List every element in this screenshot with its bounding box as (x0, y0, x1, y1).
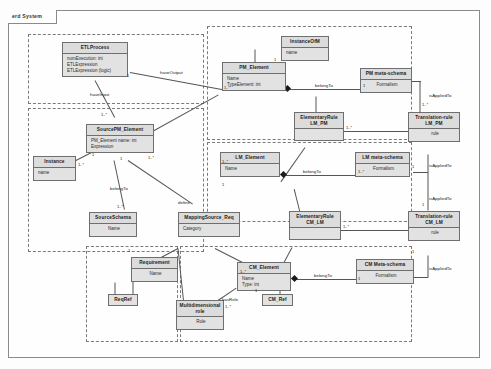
edge-belongto-lm (283, 175, 355, 176)
edge-belongto-cm (294, 279, 356, 280)
class-title: ReqRef (109, 295, 137, 305)
class-elementary-rule-cm-lm[interactable]: ElementaryRule CM_LM (289, 211, 341, 240)
class-instance[interactable]: Instance name (33, 156, 76, 181)
class-mapping-source-req[interactable]: MappingSource_Req Category (178, 212, 240, 237)
multiplicity: 1 (120, 157, 122, 162)
edge-label-define: define (178, 200, 190, 205)
class-source-schema[interactable]: SourceSchema Name (89, 212, 137, 237)
class-attributes: Name (132, 269, 177, 281)
class-translation-rule-cm-lm[interactable]: Translation-rule CM_LM rule (408, 211, 460, 241)
class-attributes: rule (409, 228, 459, 240)
class-attributes: Category (179, 224, 239, 236)
attribute: rule (413, 230, 457, 236)
multiplicity: 1..* (222, 160, 228, 165)
attribute: rule (413, 131, 457, 137)
edge-label-belongto-lm: belongTo (303, 169, 321, 174)
class-instance-of[interactable]: InstanceOfM name (281, 36, 329, 61)
class-cm-element[interactable]: CM_Element Name Type: int (237, 262, 291, 291)
multiplicity: 1 (92, 153, 94, 158)
class-cm-meta-schema[interactable]: CM Meta-schema Formalism (356, 259, 414, 284)
multiplicity: 1 (222, 183, 224, 188)
multiplicity: 1..* (422, 103, 428, 108)
attribute: Name (94, 226, 134, 232)
class-title: Translation-rule CM_LM (409, 212, 459, 228)
class-attributes: name (34, 168, 75, 180)
edge-label-have-input: haveInput (90, 92, 109, 97)
edge-label-isappliedto-3: isAppliedTo (429, 196, 451, 201)
class-attributes (295, 129, 343, 140)
edge-lmmeta-right (413, 172, 428, 173)
attribute: TypeElement: int (227, 82, 283, 88)
class-title: Multidimensional role (177, 301, 223, 317)
class-title: MappingSource_Req (179, 213, 239, 224)
class-elementary-rule-lm-pm[interactable]: ElementaryRule LM_PM (294, 112, 344, 141)
class-attributes: name (282, 48, 328, 60)
uml-diagram-canvas: erd System (0, 0, 491, 369)
multiplicity: 1 (412, 165, 414, 170)
multiplicity: 1..* (225, 305, 231, 310)
edge-label-belongto-source: belongTo (110, 186, 128, 191)
attribute: name (286, 50, 326, 56)
edge-label-belongto-pm: belongTo (315, 83, 333, 88)
class-attributes: PM_Element name: int Expression (87, 136, 153, 152)
class-attributes: Name Type: int (238, 274, 290, 290)
class-title: LM meta-schema (356, 153, 409, 164)
attribute: Category (183, 226, 237, 232)
attribute: Formalism (365, 82, 409, 88)
multiplicity: 1 (127, 74, 129, 79)
class-cm-ref[interactable]: CM_Ref (262, 294, 293, 306)
attribute: Role (181, 319, 221, 325)
attribute: Name (225, 166, 277, 172)
multiplicity: 1 (363, 84, 365, 89)
class-title: PM meta-schema (361, 69, 411, 80)
edge-label-have-output: haveOutput (160, 70, 183, 75)
class-attributes: Name (90, 224, 136, 236)
multiplicity: 1..* (240, 270, 246, 275)
class-lm-element[interactable]: LM_Element Name (220, 152, 280, 177)
multiplicity: 1..* (78, 163, 84, 168)
class-title: CM_Ref (263, 295, 292, 305)
class-multidimensional-role[interactable]: Multidimensional role Role (176, 300, 224, 330)
class-attributes: Name (221, 164, 279, 176)
multiplicity: 1 (274, 58, 276, 63)
multiplicity: 1..* (343, 225, 349, 230)
class-title: CM Meta-schema (357, 260, 413, 271)
multiplicity: 1 (255, 289, 257, 294)
attribute: Formalism (360, 166, 407, 172)
multiplicity: 1 (412, 250, 414, 255)
class-pm-element[interactable]: PM_Element Name TypeElement: int (222, 62, 286, 91)
edge-cmmeta-right (414, 277, 428, 278)
multiplicity: 1..* (346, 126, 352, 131)
attribute: Expression (91, 144, 151, 150)
multiplicity: 1 (358, 277, 360, 282)
class-pm-meta-schema[interactable]: PM meta-schema Formalism (360, 68, 412, 93)
class-attributes: Formalism (361, 80, 411, 92)
class-attributes (290, 228, 340, 239)
edge-label-isappliedto-2: isAppliedTo (429, 163, 451, 168)
edge-isappliedto-3 (428, 173, 429, 211)
class-req-ref[interactable]: ReqRef (108, 294, 138, 306)
class-title: ElementaryRule LM_PM (295, 113, 343, 129)
class-attributes: numExecution: int ETLExpression ETLExpre… (63, 54, 127, 76)
multiplicity: 1 (128, 249, 130, 254)
attribute: name (38, 170, 73, 176)
attribute: Formalism (361, 273, 411, 279)
edge-elemrule-transrule-lmpm (344, 131, 408, 132)
class-title: SourceSchema (90, 213, 136, 224)
frame-label: erd System (8, 10, 57, 24)
multiplicity: 1..* (148, 156, 154, 161)
multiplicity: 1..* (358, 170, 364, 175)
class-title: Translation-rule LM_PM (409, 113, 459, 129)
class-title: InstanceOfM (282, 37, 328, 48)
class-attributes: Formalism (357, 271, 413, 283)
multiplicity: 1..* (101, 113, 107, 118)
class-source-pm-element[interactable]: SourcePM_Element PM_Element name: int Ex… (86, 124, 154, 153)
class-translation-rule-lm-pm[interactable]: Translation-rule LM_PM rule (408, 112, 460, 142)
class-etl-process[interactable]: ETLProcess numExecution: int ETLExpressi… (62, 42, 128, 77)
class-title: SourcePM_Element (87, 125, 153, 136)
attribute: ETLExpression (logic) (67, 68, 125, 74)
class-requirement[interactable]: Requirement Name (131, 257, 178, 282)
class-title: Requirement (132, 258, 177, 269)
edge-label-isappliedto-1: isAppliedTo (429, 93, 451, 98)
class-title: LM_Element (221, 153, 279, 164)
